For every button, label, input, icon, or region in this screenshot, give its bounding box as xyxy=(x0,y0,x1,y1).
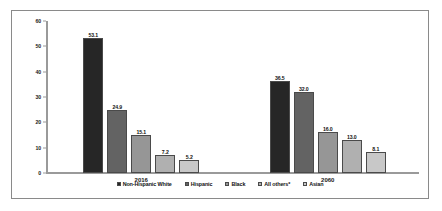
y-axis-tick-label: 10 xyxy=(35,145,41,151)
legend-item[interactable]: Hispanic xyxy=(185,181,213,187)
chart-frame: 0102030405060 53.124.915.17.25.236.532.0… xyxy=(11,10,429,199)
y-axis-tick-label: 50 xyxy=(35,43,41,49)
legend-swatch-icon xyxy=(185,182,189,186)
bar: 7.2 xyxy=(155,155,175,173)
legend-swatch-icon xyxy=(117,182,121,186)
y-axis-tick-label: 40 xyxy=(35,69,41,75)
legend-swatch-icon xyxy=(303,182,307,186)
bar-value-label: 24.9 xyxy=(112,104,122,110)
bar: 16.0 xyxy=(318,132,338,173)
y-axis-tick-mark xyxy=(43,147,46,148)
bar-value-label: 53.1 xyxy=(88,32,98,38)
legend-item[interactable]: Asian xyxy=(303,181,323,187)
bar: 13.0 xyxy=(342,140,362,173)
bar-value-label: 5.2 xyxy=(186,154,193,160)
bar: 5.2 xyxy=(179,160,199,173)
y-axis-tick-mark xyxy=(43,97,46,98)
chart-legend: Non-Hispanic WhiteHispanicBlackAll other… xyxy=(12,181,428,187)
legend-label: Non-Hispanic White xyxy=(123,181,172,187)
legend-label: Hispanic xyxy=(191,181,213,187)
bar-value-label: 7.2 xyxy=(162,149,169,155)
legend-label: Asian xyxy=(309,181,323,187)
legend-swatch-icon xyxy=(258,182,262,186)
y-axis-tick-mark xyxy=(43,46,46,47)
legend-swatch-icon xyxy=(225,182,229,186)
bar: 53.1 xyxy=(83,38,103,173)
legend-item[interactable]: Black xyxy=(225,181,245,187)
y-axis-tick-mark xyxy=(43,71,46,72)
bar: 8.1 xyxy=(366,152,386,173)
bar: 36.5 xyxy=(270,81,290,173)
legend-label: All others* xyxy=(264,181,290,187)
bar: 24.9 xyxy=(107,110,127,173)
legend-item[interactable]: Non-Hispanic White xyxy=(117,181,172,187)
legend-label: Black xyxy=(231,181,245,187)
y-axis-tick-label: 30 xyxy=(35,94,41,100)
bar-value-label: 15.1 xyxy=(136,129,146,135)
bar-value-label: 13.0 xyxy=(347,134,357,140)
bar-value-label: 8.1 xyxy=(372,146,379,152)
bar: 15.1 xyxy=(131,135,151,173)
y-axis-tick-label: 60 xyxy=(35,18,41,24)
y-axis-tick-mark xyxy=(43,173,46,174)
bar-value-label: 16.0 xyxy=(323,126,333,132)
y-axis-tick-mark xyxy=(43,21,46,22)
y-axis-tick-mark xyxy=(43,122,46,123)
plot-area: 0102030405060 53.124.915.17.25.236.532.0… xyxy=(46,21,419,173)
legend-item[interactable]: All others* xyxy=(258,181,290,187)
bars-layer: 53.124.915.17.25.236.532.016.013.08.1 xyxy=(48,21,419,173)
y-axis-tick-label: 0 xyxy=(38,170,41,176)
y-axis-tick-label: 20 xyxy=(35,119,41,125)
bar: 32.0 xyxy=(294,92,314,173)
bar-value-label: 36.5 xyxy=(275,75,285,81)
bar-value-label: 32.0 xyxy=(299,86,309,92)
